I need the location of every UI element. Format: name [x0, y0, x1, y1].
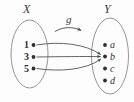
codomain-element-dot-d — [103, 79, 107, 83]
domain-element-label-5: 5 — [24, 64, 29, 74]
domain-element-label-1: 1 — [24, 40, 29, 50]
mapping-function-label: g — [66, 14, 72, 25]
domain-element-dot-1 — [32, 43, 36, 47]
codomain-element-label-d: d — [110, 76, 115, 86]
codomain-element-dot-b — [103, 55, 107, 59]
domain-element-label-3: 3 — [24, 52, 29, 62]
codomain-element-label-c: c — [110, 64, 114, 74]
mapping-direction-arrow — [55, 28, 81, 32]
codomain-element-label-a: a — [110, 40, 115, 50]
codomain-element-dot-a — [103, 43, 107, 47]
domain-element-dot-5 — [32, 67, 36, 71]
codomain-element-dot-c — [103, 67, 107, 71]
domain-element-dot-3 — [32, 55, 36, 59]
domain-set-ellipse — [11, 20, 48, 88]
codomain-element-label-b: b — [110, 52, 115, 62]
function-mapping-diagram: X Y g 1 3 5 a b c d — [0, 0, 134, 102]
codomain-set-label: Y — [104, 3, 111, 15]
domain-set-label: X — [23, 3, 30, 15]
mapping-arrow-1-to-b — [37, 43, 101, 54]
